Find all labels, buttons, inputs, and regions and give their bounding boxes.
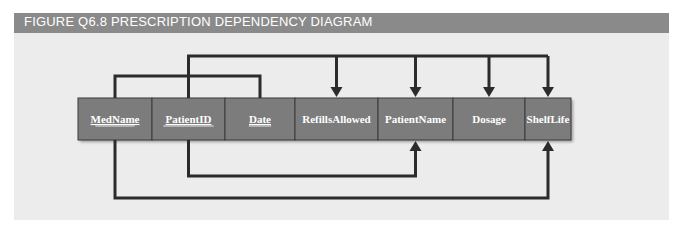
attribute-label: ShelfLife [527,113,570,125]
partial-dependency-line-medname [115,140,548,198]
arrowhead-down-icon [410,87,422,97]
arrowhead-up-icon [542,141,554,151]
attribute-label: MedName [91,113,140,125]
arrowhead-up-icon [410,141,422,151]
attribute-label: Dosage [472,113,506,125]
arrowhead-down-icon [542,87,554,97]
attribute-label: PatientName [385,113,446,125]
arrowhead-down-icon [331,87,343,97]
attribute-label: PatientID [166,113,212,125]
attribute-row: MedNamePatientIDDateRefillsAllowedPatien… [78,98,571,140]
arrowhead-down-icon [483,87,495,97]
dependency-diagram: MedNamePatientIDDateRefillsAllowedPatien… [0,0,683,233]
attribute-label: RefillsAllowed [302,113,370,125]
partial-dependency-line-patientid [189,140,416,176]
attribute-label: Date [249,113,271,125]
